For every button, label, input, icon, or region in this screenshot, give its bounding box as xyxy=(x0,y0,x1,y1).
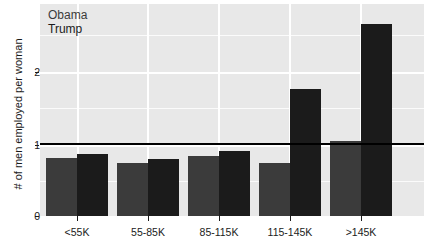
x-axis: <55K 55-85K 85-115K 115-145K >145K xyxy=(40,216,424,245)
bar-trump-gt145k xyxy=(361,24,392,216)
bar-obama-gt145k xyxy=(330,141,361,216)
x-tickmark-gt145k xyxy=(361,216,362,221)
y-tickmark-1 xyxy=(35,145,39,146)
x-tick-label-55-85k: 55-85K xyxy=(131,226,165,238)
x-tickmark-85-115k xyxy=(219,216,220,221)
plot-panel: Obama Trump xyxy=(40,4,424,216)
bar-trump-55-85k xyxy=(148,159,179,216)
x-tick-label-gt145k: >145K xyxy=(346,226,377,238)
bar-trump-85-115k xyxy=(219,151,250,216)
x-tickmark-lt55k xyxy=(77,216,78,221)
x-tick-label-115-145k: 115-145K xyxy=(268,226,313,238)
bar-obama-lt55k xyxy=(46,158,77,216)
bar-trump-115-145k xyxy=(290,89,321,216)
x-tickmark-55-85k xyxy=(148,216,149,221)
bar-trump-lt55k xyxy=(77,154,108,216)
bar-obama-55-85k xyxy=(117,163,148,216)
bar-chart: # of men employed per woman 2 1 0 xyxy=(0,0,424,245)
x-tick-label-85-115k: 85-115K xyxy=(200,226,239,238)
x-tickmark-115-145k xyxy=(290,216,291,221)
reference-line-at-one xyxy=(40,143,424,145)
y-axis-title: # of men employed per woman xyxy=(12,4,24,224)
x-tick-label-lt55k: <55K xyxy=(65,226,90,238)
legend-item-obama: Obama xyxy=(48,8,87,22)
legend: Obama Trump xyxy=(48,8,87,36)
bar-obama-115-145k xyxy=(259,163,290,216)
legend-item-trump: Trump xyxy=(48,22,87,36)
bar-obama-85-115k xyxy=(188,156,219,216)
y-axis: # of men employed per woman 2 1 0 xyxy=(0,0,40,245)
y-tickmark-0 xyxy=(35,216,39,217)
y-tickmark-2 xyxy=(35,72,39,73)
